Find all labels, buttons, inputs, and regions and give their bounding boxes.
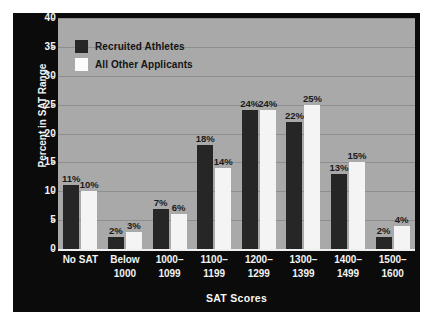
bar-group: 22%25% xyxy=(286,18,320,249)
x-axis-tick-line: 1000 xyxy=(103,267,148,281)
bar-value-label: 14% xyxy=(208,157,238,167)
y-axis-tick-mark xyxy=(51,249,55,250)
bar[interactable] xyxy=(81,191,97,249)
bar-value-label: 10% xyxy=(74,180,104,190)
x-axis-tick-line: Below xyxy=(103,253,148,267)
x-axis-tick-label: 1300–1399 xyxy=(281,253,326,281)
chart-frame: Percent in SAT Range 0510152025303540 11… xyxy=(13,13,420,312)
legend-label: Recruited Athletes xyxy=(95,41,185,52)
bar-group: 13%15% xyxy=(331,18,365,249)
x-axis-tick-label: 1000–1099 xyxy=(147,253,192,281)
x-axis: No SATBelow10001000–10991100–11991200–12… xyxy=(58,253,415,289)
x-axis-tick-label: 1100–1199 xyxy=(192,253,237,281)
y-axis-tick-mark xyxy=(51,76,55,77)
x-axis-tick-line: 1600 xyxy=(370,267,415,281)
y-axis-tick-mark xyxy=(51,134,55,135)
bar-value-label: 24% xyxy=(253,99,283,109)
bar-value-label: 15% xyxy=(342,151,372,161)
x-axis-tick-line: 1099 xyxy=(147,267,192,281)
bar-value-label: 25% xyxy=(297,94,327,104)
x-axis-tick-line: 1199 xyxy=(192,267,237,281)
x-axis-tick-label: 1200–1299 xyxy=(237,253,282,281)
x-axis-tick-line: 1200– xyxy=(237,253,282,267)
bar[interactable] xyxy=(63,185,79,249)
x-axis-tick-line: 1000– xyxy=(147,253,192,267)
legend-item-recruited-athletes: Recruited Athletes xyxy=(75,39,193,53)
bar[interactable] xyxy=(304,105,320,249)
legend-swatch-icon xyxy=(75,58,88,71)
y-axis-tick-mark xyxy=(51,162,55,163)
bar[interactable] xyxy=(260,110,276,249)
x-axis-tick-label: 1400–1499 xyxy=(326,253,371,281)
legend-swatch-icon xyxy=(75,40,88,53)
bar-value-label: 18% xyxy=(190,134,220,144)
bar-value-label: 3% xyxy=(119,221,149,231)
bar-value-label: 6% xyxy=(164,203,194,213)
bar[interactable] xyxy=(153,209,169,249)
x-axis-tick-label: No SAT xyxy=(58,253,103,267)
y-axis-tick-mark xyxy=(51,47,55,48)
legend-label: All Other Applicants xyxy=(95,59,193,70)
legend-item-all-other-applicants: All Other Applicants xyxy=(75,57,193,71)
bar[interactable] xyxy=(242,110,258,249)
y-axis-tick-mark xyxy=(51,191,55,192)
y-axis-tick-mark xyxy=(51,220,55,221)
bar[interactable] xyxy=(349,162,365,249)
x-axis-tick-label: 1500–1600 xyxy=(370,253,415,281)
bar-group: 24%24% xyxy=(242,18,276,249)
y-axis-tick-mark xyxy=(51,105,55,106)
x-axis-tick-line: 1399 xyxy=(281,267,326,281)
bar[interactable] xyxy=(108,237,124,249)
x-axis-tick-line: No SAT xyxy=(58,253,103,267)
bar[interactable] xyxy=(215,168,231,249)
legend: Recruited Athletes All Other Applicants xyxy=(75,39,193,75)
x-axis-title: SAT Scores xyxy=(58,292,415,304)
x-axis-tick-line: 1299 xyxy=(237,267,282,281)
x-axis-tick-line: 1500– xyxy=(370,253,415,267)
bar[interactable] xyxy=(286,122,302,249)
x-axis-tick-label: Below1000 xyxy=(103,253,148,281)
bar[interactable] xyxy=(394,226,410,249)
bar[interactable] xyxy=(331,174,347,249)
x-axis-tick-line: 1100– xyxy=(192,253,237,267)
x-axis-tick-line: 1300– xyxy=(281,253,326,267)
bar-group: 18%14% xyxy=(197,18,231,249)
x-axis-tick-line: 1400– xyxy=(326,253,371,267)
y-axis: Percent in SAT Range 0510152025303540 xyxy=(18,18,56,249)
bar[interactable] xyxy=(171,214,187,249)
bar[interactable] xyxy=(126,232,142,249)
y-axis-tick-mark xyxy=(51,18,55,19)
x-axis-tick-line: 1499 xyxy=(326,267,371,281)
bar[interactable] xyxy=(376,237,392,249)
x-axis-baseline xyxy=(58,249,415,251)
bar-value-label: 4% xyxy=(387,215,417,225)
bar-group: 2%4% xyxy=(376,18,410,249)
